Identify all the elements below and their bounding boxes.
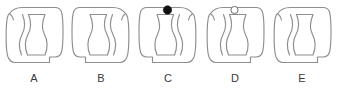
shape-a-graphic: [0, 0, 68, 70]
shape-d-graphic: [201, 0, 269, 70]
shape-b-graphic: [67, 0, 135, 70]
shape-label-d: D: [201, 72, 269, 85]
shape-c-graphic: [134, 0, 202, 70]
shape-label-a: A: [0, 72, 68, 85]
shape-b-outer-outline: [72, 8, 129, 63]
shape-b-inner-waves: [88, 15, 116, 56]
shape-label-c: C: [134, 72, 202, 85]
shape-item-b[interactable]: B: [67, 0, 135, 92]
shape-item-c[interactable]: C: [134, 0, 202, 92]
shape-c-inner-waves: [155, 15, 183, 56]
shape-d-outer-outline: [207, 8, 264, 63]
shape-c-outer-outline: [139, 8, 196, 63]
shape-d-inner-waves: [220, 15, 248, 56]
shape-label-b: B: [67, 72, 135, 85]
shape-label-e: E: [268, 72, 336, 85]
shape-e-inner-waves: [287, 15, 315, 56]
shape-item-d[interactable]: D: [201, 0, 269, 92]
shape-e-graphic: [268, 0, 336, 70]
shape-item-e[interactable]: E: [268, 0, 336, 92]
shape-comparison-figure: A B: [0, 0, 342, 92]
filled-dot-marker-icon: [163, 6, 171, 14]
shape-a-outer-outline: [6, 8, 63, 63]
open-circle-marker-icon: [231, 6, 238, 13]
shape-item-a[interactable]: A: [0, 0, 68, 92]
shape-e-outer-outline: [274, 8, 331, 63]
shape-a-inner-waves: [19, 15, 47, 56]
